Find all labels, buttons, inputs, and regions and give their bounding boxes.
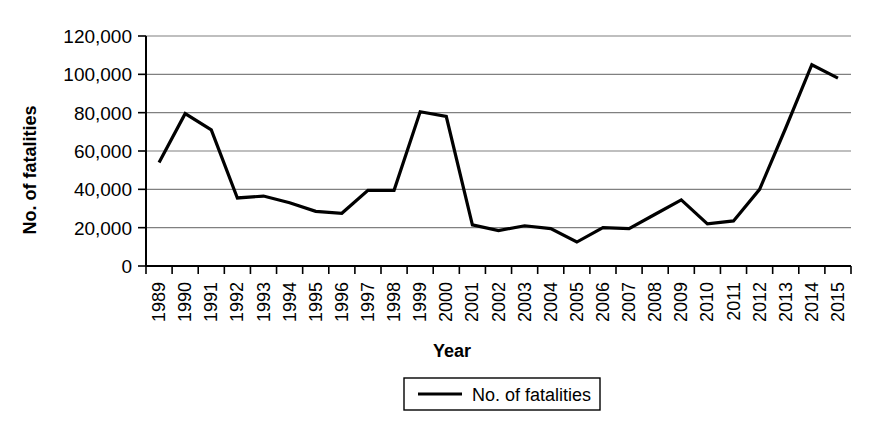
x-axis-tick-label: 1989 [149, 282, 169, 322]
x-axis-tick-label: 2000 [436, 282, 456, 322]
x-axis-tick-label: 1993 [254, 282, 274, 322]
y-axis-tick-label: 20,000 [74, 218, 132, 239]
legend: No. of fatalities [404, 378, 600, 410]
x-axis-tick-label: 2001 [462, 282, 482, 322]
x-axis-tick-label: 1997 [358, 282, 378, 322]
y-axis-tick-label: 60,000 [74, 141, 132, 162]
x-axis-tick-label: 1994 [280, 282, 300, 322]
x-axis-tick-label: 2009 [671, 282, 691, 322]
y-axis-tick-label: 40,000 [74, 179, 132, 200]
y-axis-tick-labels: 120,000100,00080,00060,00040,00020,0000 [63, 26, 132, 277]
x-axis-tick-label: 1991 [201, 282, 221, 322]
plot-gridlines [146, 36, 851, 228]
y-axis-tick-label: 100,000 [63, 64, 132, 85]
x-axis-tick-label: 2002 [489, 282, 509, 322]
x-axis-tick-marks [146, 266, 851, 274]
x-axis-tick-labels: 1989199019911992199319941995199619971998… [149, 282, 848, 322]
x-axis-tick-label: 2005 [567, 282, 587, 322]
x-axis-tick-label: 2007 [619, 282, 639, 322]
series-line-no-of-fatalities [159, 65, 838, 242]
data-series-group [159, 65, 838, 242]
x-axis-tick-label: 2008 [645, 282, 665, 322]
y-axis-title: No. of fatalities [20, 105, 40, 234]
chart-canvas: 120,000100,00080,00060,00040,00020,0000 … [0, 0, 879, 425]
x-axis-tick-label: 1999 [410, 282, 430, 322]
y-axis-tick-label: 120,000 [63, 26, 132, 47]
x-axis-tick-label: 2013 [776, 282, 796, 322]
x-axis-tick-label: 1996 [332, 282, 352, 322]
legend-entry-label: No. of fatalities [472, 385, 591, 405]
x-axis-tick-label: 2014 [802, 282, 822, 322]
x-axis-tick-label: 2012 [750, 282, 770, 322]
x-axis-tick-label: 2003 [515, 282, 535, 322]
x-axis-tick-label: 1998 [384, 282, 404, 322]
x-axis-tick-label: 2006 [593, 282, 613, 322]
x-axis-tick-label: 1990 [175, 282, 195, 322]
y-axis-tick-marks [138, 36, 146, 266]
x-axis-tick-label: 1992 [227, 282, 247, 322]
x-axis-tick-label: 2004 [541, 282, 561, 322]
x-axis-tick-label: 1995 [306, 282, 326, 322]
x-axis-tick-label: 2015 [828, 282, 848, 322]
y-axis-tick-label: 80,000 [74, 103, 132, 124]
line-chart: 120,000100,00080,00060,00040,00020,0000 … [0, 0, 879, 425]
x-axis-title: Year [433, 341, 471, 361]
x-axis-tick-label: 2011 [724, 282, 744, 321]
y-axis-tick-label: 0 [121, 256, 132, 277]
x-axis-tick-label: 2010 [697, 282, 717, 322]
